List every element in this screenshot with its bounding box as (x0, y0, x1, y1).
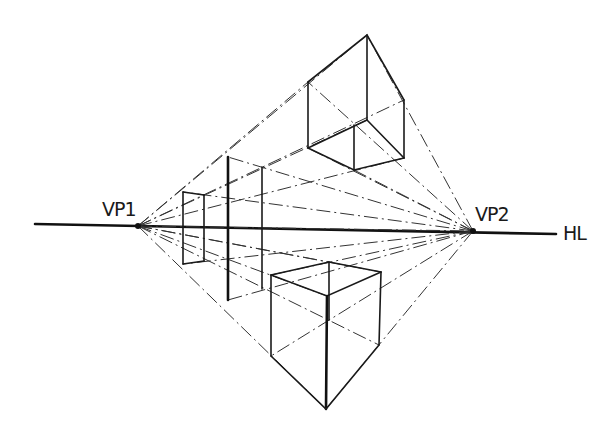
vp2-label: VP2 (475, 203, 509, 225)
vp2-construction-lines (183, 35, 473, 409)
vp1-label: VP1 (102, 198, 136, 220)
upper-box (308, 35, 404, 170)
vp1-point (135, 223, 141, 229)
vp1-construction-lines (138, 35, 473, 409)
horizon-label: HL (563, 222, 586, 244)
horizon-line (35, 224, 556, 234)
lower-box (271, 262, 381, 409)
perspective-diagram (0, 0, 616, 442)
vp2-point (470, 228, 476, 234)
